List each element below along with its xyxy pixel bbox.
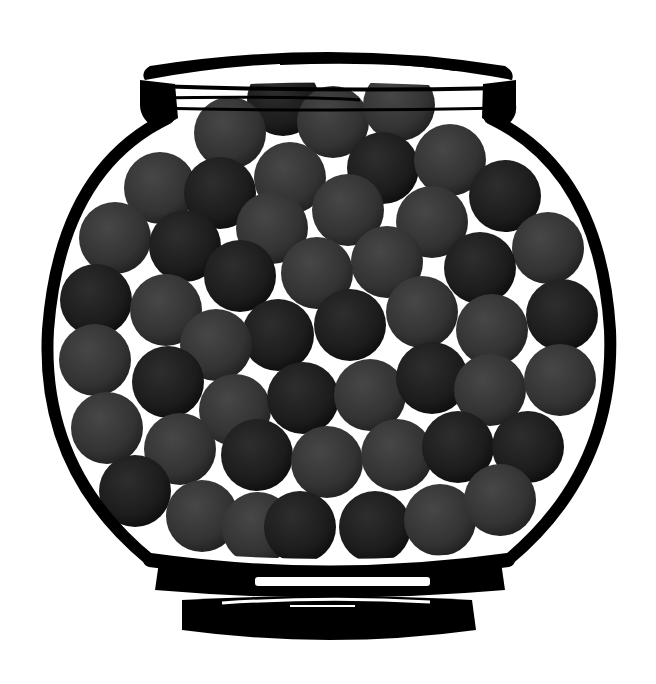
ball	[79, 202, 151, 274]
ball	[464, 464, 536, 536]
ball	[132, 346, 204, 418]
ball	[71, 392, 143, 464]
jar-illustration	[0, 0, 656, 684]
ball	[444, 232, 516, 304]
ball	[314, 289, 386, 361]
ball	[526, 279, 598, 351]
ball	[264, 491, 336, 563]
ball	[524, 344, 596, 416]
ball	[386, 276, 458, 348]
jar-base	[155, 555, 505, 640]
ball	[59, 324, 131, 396]
ball	[363, 69, 435, 141]
ball	[221, 419, 293, 491]
ball	[361, 419, 433, 491]
ball	[512, 212, 584, 284]
ball	[204, 240, 276, 312]
ball	[267, 362, 339, 434]
ball	[291, 426, 363, 498]
ball	[339, 491, 411, 563]
ball	[242, 299, 314, 371]
